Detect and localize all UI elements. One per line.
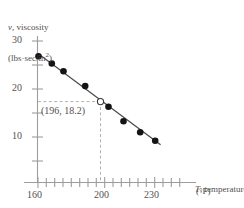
y-axis-units: (lbs·sec/in xyxy=(8,53,46,63)
data-point xyxy=(120,118,127,125)
y-axis-units-close: ) xyxy=(49,53,52,63)
highlight-point-marker xyxy=(97,99,103,105)
x-tick-label-200: 200 xyxy=(94,189,109,200)
data-point xyxy=(137,129,144,136)
highlight-point-annotation: (196, 18.2) xyxy=(41,105,85,116)
viscosity-temperature-chart: v, viscosity (lbs·sec/in2) T, temperatur… xyxy=(0,0,244,208)
data-point xyxy=(82,83,89,90)
y-tick-label-20: 20 xyxy=(12,82,22,93)
data-point xyxy=(105,103,112,110)
x-tick-label-160: 160 xyxy=(27,189,42,200)
data-point xyxy=(152,138,159,145)
x-tick-label-230: 230 xyxy=(144,189,159,200)
data-point xyxy=(60,68,67,75)
x-axis-units: (°F) xyxy=(196,186,211,196)
y-tick-label-10: 10 xyxy=(12,130,22,141)
y-axis-label-text: , viscosity xyxy=(12,22,49,32)
data-point-group xyxy=(35,53,158,144)
y-tick-label-30: 30 xyxy=(12,34,22,45)
x-axis-label: T, temperature xyxy=(186,174,244,204)
